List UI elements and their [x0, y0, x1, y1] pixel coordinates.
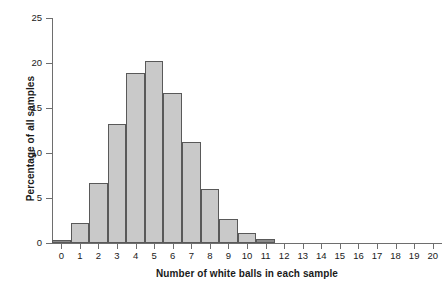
x-tick-label-5: 5 — [144, 251, 164, 261]
y-tick-label-10: 10 — [0, 148, 42, 158]
x-tick-label-12: 12 — [274, 251, 294, 261]
x-tick-18 — [396, 243, 397, 249]
x-tick-label-16: 16 — [348, 251, 368, 261]
x-tick-20 — [433, 243, 434, 249]
x-tick-label-19: 19 — [404, 251, 424, 261]
x-tick-4 — [136, 243, 137, 249]
x-tick-8 — [210, 243, 211, 249]
y-tick-label-0: 0 — [0, 238, 42, 248]
histogram-chart: Percentage of all samples 0510152025 012… — [0, 0, 448, 290]
x-tick-label-10: 10 — [237, 251, 257, 261]
x-tick-19 — [414, 243, 415, 249]
x-tick-6 — [173, 243, 174, 249]
histogram-bar — [163, 93, 182, 243]
x-tick-label-9: 9 — [218, 251, 238, 261]
x-tick-label-13: 13 — [293, 251, 313, 261]
y-tick-label-15: 15 — [0, 103, 42, 113]
x-tick-label-4: 4 — [126, 251, 146, 261]
x-tick-label-8: 8 — [200, 251, 220, 261]
x-tick-0 — [61, 243, 62, 249]
histogram-bar — [71, 223, 90, 243]
x-tick-9 — [228, 243, 229, 249]
x-tick-15 — [340, 243, 341, 249]
x-tick-label-11: 11 — [256, 251, 276, 261]
plot-area — [52, 18, 442, 243]
x-tick-label-1: 1 — [70, 251, 90, 261]
x-tick-12 — [284, 243, 285, 249]
x-tick-label-0: 0 — [51, 251, 71, 261]
y-tick-label-25: 25 — [0, 13, 42, 23]
y-tick-label-20: 20 — [0, 58, 42, 68]
x-tick-label-7: 7 — [181, 251, 201, 261]
x-tick-13 — [303, 243, 304, 249]
x-tick-11 — [266, 243, 267, 249]
x-tick-label-6: 6 — [163, 251, 183, 261]
x-tick-label-20: 20 — [423, 251, 443, 261]
histogram-bar — [126, 73, 145, 243]
x-tick-17 — [377, 243, 378, 249]
x-tick-label-18: 18 — [386, 251, 406, 261]
y-axis-title: Percentage of all samples — [25, 39, 36, 239]
histogram-bar — [238, 233, 257, 243]
histogram-bar — [108, 124, 127, 243]
x-tick-label-3: 3 — [107, 251, 127, 261]
histogram-bar — [182, 142, 201, 243]
x-axis-title: Number of white balls in each sample — [52, 268, 442, 279]
x-tick-1 — [80, 243, 81, 249]
x-tick-label-2: 2 — [88, 251, 108, 261]
x-tick-16 — [358, 243, 359, 249]
histogram-bar — [219, 219, 238, 243]
x-tick-2 — [98, 243, 99, 249]
x-tick-5 — [154, 243, 155, 249]
x-tick-14 — [321, 243, 322, 249]
histogram-bar — [52, 240, 71, 243]
y-tick-0 — [46, 243, 52, 244]
x-tick-label-15: 15 — [330, 251, 350, 261]
histogram-bar — [201, 189, 220, 243]
x-tick-label-14: 14 — [311, 251, 331, 261]
x-tick-7 — [191, 243, 192, 249]
histogram-bar — [89, 183, 108, 243]
x-tick-label-17: 17 — [367, 251, 387, 261]
y-tick-label-5: 5 — [0, 193, 42, 203]
x-tick-3 — [117, 243, 118, 249]
histogram-bar — [256, 239, 275, 243]
histogram-bar — [145, 61, 164, 243]
x-tick-10 — [247, 243, 248, 249]
